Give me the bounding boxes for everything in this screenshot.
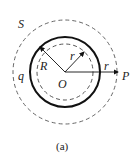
- label-r-inner: r: [70, 49, 75, 63]
- label-P: P: [121, 69, 130, 83]
- label-R: R: [39, 59, 48, 73]
- label-O: O: [58, 77, 67, 91]
- caption: (a): [56, 140, 69, 153]
- label-s: S: [18, 17, 24, 31]
- label-r-point: r: [104, 59, 109, 73]
- label-q: q: [18, 69, 24, 83]
- diagram: S q R O r r P (a): [0, 0, 140, 158]
